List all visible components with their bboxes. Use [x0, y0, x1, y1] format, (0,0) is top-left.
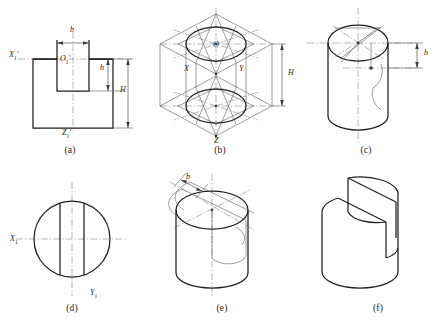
panel-d	[0, 160, 150, 300]
caption-d: (d)	[52, 303, 92, 313]
label-axis-z-b: Z	[214, 136, 218, 145]
label-sub: 1	[15, 239, 18, 245]
caption-e: (e)	[202, 303, 242, 313]
label-prime: '	[69, 54, 71, 63]
label-sub: 1	[94, 293, 97, 299]
dimension-line-H	[272, 44, 286, 106]
label-axis-o-b: O	[213, 40, 219, 49]
label-axis-y1-d: Y1	[90, 288, 97, 299]
label-axis-x-b: X	[184, 64, 189, 73]
label-dimension-b-e: b	[186, 172, 190, 181]
center-lines	[16, 182, 128, 296]
ellipse-construction-chords	[333, 26, 385, 70]
caption-b: (b)	[200, 145, 240, 155]
caption-f: (f)	[358, 303, 398, 313]
label-dimension-h-c: h	[424, 48, 428, 57]
label-axis-z1-prime: Z1'	[62, 128, 71, 139]
dimension-line-H	[126, 59, 130, 128]
caption-a: (a)	[50, 145, 90, 155]
panel-c	[295, 0, 440, 150]
label-axis-x1-prime: X1'	[9, 50, 18, 61]
panel-f	[300, 160, 440, 300]
panel-a	[0, 0, 150, 150]
extension-lines-right	[89, 59, 133, 128]
label-axis-x1-d: X1	[10, 234, 18, 245]
panel-b	[150, 0, 295, 150]
label-prime: '	[69, 128, 71, 137]
top-rim-arc	[348, 177, 398, 192]
figure-sheet: X1' O1' Z1' b h H O X Y Z H h X1 Y1 b (a…	[0, 0, 440, 327]
panel-e	[150, 160, 300, 300]
label-dimension-b-a: b	[70, 25, 74, 34]
dimension-line-h	[106, 59, 110, 91]
slot-side-walls	[169, 182, 246, 264]
bottom-rhombus-group	[160, 76, 274, 137]
caption-c: (c)	[346, 145, 386, 155]
dimension-line-h	[388, 43, 423, 68]
label-dimension-H-a: H	[120, 85, 126, 94]
label-dimension-h-a: h	[100, 63, 104, 72]
label-prime: '	[17, 50, 19, 59]
label-origin-o1-prime: O1'	[60, 54, 70, 65]
construction-line-horizontal	[307, 43, 417, 68]
label-dimension-H-b: H	[288, 68, 294, 77]
slot-bottom-curve	[372, 64, 382, 110]
label-axis-y-b: Y	[239, 64, 243, 73]
